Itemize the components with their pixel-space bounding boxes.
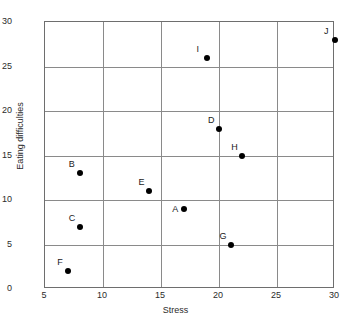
data-point-label: A: [172, 205, 178, 214]
data-point-marker: [239, 153, 245, 159]
y-tick-label: 15: [2, 151, 12, 160]
y-tick-label: 5: [7, 240, 12, 249]
scatter-plot-figure: Eating difficulties 051015202530 ABCDEFG…: [0, 0, 351, 323]
gridline-vertical: [161, 22, 162, 287]
y-tick-label: 30: [2, 17, 12, 26]
data-point-label: F: [57, 258, 63, 267]
gridline-horizontal: [45, 67, 333, 68]
y-tick-label: 10: [2, 195, 12, 204]
y-tick-label: 25: [2, 62, 12, 71]
data-point-marker: [77, 170, 83, 176]
gridline-vertical: [277, 22, 278, 287]
data-point-label: I: [196, 45, 199, 54]
data-point-label: E: [138, 178, 144, 187]
x-tick-label: 15: [155, 291, 165, 300]
plot-area: ABCDEFGHIJ: [44, 21, 334, 288]
data-point-marker: [77, 224, 83, 230]
x-tick-label: 5: [41, 291, 46, 300]
y-axis-title: Eating difficulties: [15, 71, 25, 201]
gridline-vertical: [103, 22, 104, 287]
gridline-horizontal: [45, 156, 333, 157]
gridline-horizontal: [45, 200, 333, 201]
x-tick-label: 20: [213, 291, 223, 300]
x-tick-label: 25: [271, 291, 281, 300]
data-point-marker: [204, 55, 210, 61]
gridline-horizontal: [45, 111, 333, 112]
data-point-marker: [146, 188, 152, 194]
data-point-label: G: [220, 232, 227, 241]
data-point-label: C: [69, 214, 76, 223]
x-tick-label: 10: [97, 291, 107, 300]
data-point-marker: [216, 126, 222, 132]
data-point-marker: [181, 206, 187, 212]
y-tick-label: 0: [7, 284, 12, 293]
gridline-horizontal: [45, 245, 333, 246]
data-point-label: B: [69, 160, 75, 169]
x-axis-title: Stress: [0, 305, 351, 315]
y-tick-label: 20: [2, 106, 12, 115]
data-point-marker: [332, 37, 338, 43]
data-point-label: D: [208, 116, 215, 125]
data-point-label: J: [324, 27, 329, 36]
data-point-label: H: [231, 143, 238, 152]
data-point-marker: [65, 268, 71, 274]
gridline-vertical: [219, 22, 220, 287]
x-tick-label: 30: [329, 291, 339, 300]
data-point-marker: [228, 242, 234, 248]
